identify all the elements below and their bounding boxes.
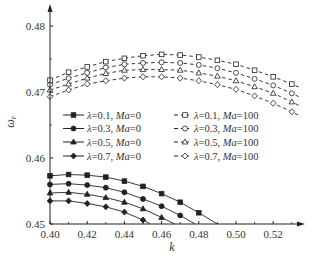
diamond-marker-icon [84,81,90,87]
square-marker-icon [141,184,146,189]
legend-label: λ=0.5, Ma=0 [86,137,141,148]
series-line [50,192,175,224]
square-marker-icon [122,56,127,61]
x-tick-label: 0.52 [264,228,283,240]
x-tick-label: 0.42 [78,228,97,240]
series-triangle-ma0 [47,189,174,224]
series-line [50,201,150,224]
axes: 0.400.420.440.460.480.500.52 0.450.460.4… [3,4,305,254]
square-marker-icon [271,75,276,80]
circle-marker-icon [122,190,127,195]
legend-item-ma100: λ=0.3, Ma=100 [174,123,259,134]
triangle-marker-icon [215,73,221,78]
legend-label: λ=0.7, Ma=0 [86,151,141,162]
circle-marker-icon [141,196,146,201]
square-marker-icon [183,113,188,118]
x-tick-label: 0.44 [115,228,135,240]
square-marker-icon [85,65,90,70]
legend-label: λ=0.3, Ma=100 [193,123,259,134]
plot-area [47,52,301,224]
square-marker-icon [252,68,257,73]
square-marker-icon [104,59,109,64]
y-tick-label: 0.47 [26,86,46,98]
diamond-marker-icon [122,75,128,81]
legend-label: λ=0.1, Ma=100 [193,110,259,121]
square-marker-icon [215,58,220,63]
legend-item-ma0: λ=0.5, Ma=0 [63,137,141,148]
y-axis-title: ωr [3,115,18,127]
legend-label: λ=0.5, Ma=100 [193,137,259,148]
square-marker-icon [85,173,90,178]
square-marker-icon [178,53,183,58]
diamond-marker-icon [182,153,188,159]
square-marker-icon [66,70,71,75]
square-marker-icon [159,52,164,57]
square-marker-icon [197,210,202,215]
diamond-marker-icon [66,198,72,204]
triangle-marker-icon [233,78,239,83]
triangle-marker-icon [270,90,276,95]
legend-label: λ=0.1, Ma=0 [86,110,141,121]
legend-item-ma100: λ=0.5, Ma=100 [174,137,259,148]
circle-marker-icon [234,70,239,75]
diamond-marker-icon [233,86,239,92]
square-marker-icon [104,175,109,180]
x-axis-title: k [169,240,175,254]
circle-marker-icon [103,65,108,70]
circle-marker-icon [85,183,90,188]
diamond-marker-icon [122,209,128,215]
x-tick-label: 0.48 [189,228,209,240]
circle-marker-icon [178,213,183,218]
square-marker-icon [141,53,146,58]
square-marker-icon [290,82,295,87]
y-tick-label: 0.46 [26,152,46,164]
series-line [50,175,217,225]
x-tick-label: 0.50 [226,228,246,240]
diamond-marker-icon [270,100,276,106]
diamond-marker-icon [215,82,221,88]
square-marker-icon [71,113,76,118]
diamond-marker-icon [252,93,258,99]
circle-marker-icon [289,91,294,96]
diamond-marker-icon [289,109,295,115]
diamond-marker-icon [177,75,183,81]
legend: λ=0.1, Ma=0λ=0.3, Ma=0λ=0.5, Ma=0λ=0.7, … [63,110,259,162]
x-axis-arrow-icon [297,222,305,227]
diamond-marker-icon [71,153,77,159]
x-tick-label: 0.46 [152,228,172,240]
triangle-marker-icon [252,84,258,89]
square-marker-icon [122,179,127,184]
circle-marker-icon [71,126,76,131]
svg-text:ωr: ωr [3,115,18,127]
diamond-marker-icon [196,78,202,84]
diamond-marker-icon [103,204,109,210]
square-marker-icon [159,191,164,196]
chart: 0.400.420.440.460.480.500.52 0.450.460.4… [0,0,312,265]
circle-marker-icon [183,126,188,131]
circle-marker-icon [159,204,164,209]
diamond-marker-icon [66,87,72,93]
y-tick-label: 0.48 [26,20,46,32]
series-diamond-ma0 [47,198,150,224]
legend-item-ma100: λ=0.1, Ma=100 [174,110,259,121]
legend-item-ma0: λ=0.3, Ma=0 [63,123,141,134]
circle-marker-icon [252,76,257,81]
triangle-marker-icon [140,67,146,72]
circle-marker-icon [178,60,183,65]
circle-marker-icon [66,76,71,81]
circle-marker-icon [215,66,220,71]
triangle-marker-icon [66,189,72,194]
square-marker-icon [66,172,71,177]
legend-item-ma0: λ=0.1, Ma=0 [63,110,141,121]
series-square-ma0 [48,172,218,224]
legend-item-ma0: λ=0.7, Ma=0 [63,151,141,162]
legend-label: λ=0.7, Ma=100 [193,151,259,162]
circle-marker-icon [141,60,146,65]
circle-marker-icon [66,181,71,186]
diamond-marker-icon [103,78,109,84]
square-marker-icon [178,200,183,205]
diamond-marker-icon [159,74,165,80]
legend-label: λ=0.3, Ma=0 [86,123,141,134]
y-tick-label: 0.45 [26,218,46,230]
circle-marker-icon [103,185,108,190]
